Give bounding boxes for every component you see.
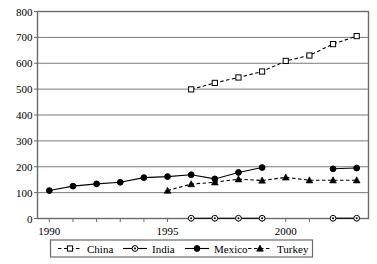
legend-label: Mexico — [214, 243, 248, 255]
chart-canvas: 0100200300400500600700800 199019952000 C… — [0, 0, 377, 264]
series-india-marker-dot — [214, 217, 216, 219]
legend-label: Turkey — [277, 243, 309, 255]
series-china-marker-square — [330, 42, 335, 47]
y-tick-label: 800 — [16, 6, 33, 18]
series-mexico-marker-circle — [141, 175, 147, 181]
series-china-marker-square — [354, 33, 359, 38]
y-tick-label: 200 — [16, 161, 33, 173]
y-tick-label: 400 — [16, 109, 33, 121]
chart-legend: ChinaIndiaMexicoTurkey — [51, 240, 313, 257]
series-mexico-marker-circle — [46, 188, 52, 194]
y-tick-label: 500 — [16, 83, 33, 95]
series-india-marker-dot — [332, 217, 334, 219]
series-china-marker-square — [260, 69, 265, 74]
y-tick-label: 300 — [16, 135, 33, 147]
x-tick-label: 1990 — [38, 225, 61, 237]
series-mexico-marker-circle — [330, 166, 336, 172]
x-tick-label: 2000 — [275, 225, 298, 237]
y-tick-label: 600 — [16, 57, 33, 69]
series-mexico-marker-circle — [354, 165, 360, 171]
legend-label: India — [152, 243, 175, 255]
series-china-marker-square — [189, 87, 194, 92]
y-tick-label: 100 — [16, 187, 33, 199]
y-tick-label: 700 — [16, 31, 33, 43]
series-mexico-marker-circle — [188, 172, 194, 178]
series-mexico-marker-circle — [94, 181, 100, 187]
legend-china-marker-square — [67, 246, 72, 251]
series-china-marker-square — [236, 75, 241, 80]
x-tick-label: 1995 — [157, 225, 180, 237]
series-mexico-marker-circle — [259, 165, 265, 171]
series-line — [333, 168, 357, 169]
series-mexico-marker-circle — [165, 174, 171, 180]
series-mexico-marker-circle — [236, 170, 242, 176]
series-india-marker-dot — [237, 217, 239, 219]
series-india-marker-dot — [356, 217, 358, 219]
y-tick-label: 0 — [27, 213, 33, 225]
series-china-marker-square — [283, 58, 288, 63]
line-chart: 0100200300400500600700800 199019952000 C… — [0, 0, 377, 264]
series-india-marker-dot — [190, 217, 192, 219]
legend-label: China — [87, 243, 113, 255]
series-mexico-marker-circle — [70, 183, 76, 189]
series-china-marker-square — [307, 53, 312, 58]
series-india-marker-dot — [261, 217, 263, 219]
legend-india-marker-dot — [134, 248, 136, 250]
series-mexico-marker-circle — [117, 179, 123, 185]
series-china-marker-square — [212, 80, 217, 85]
legend-mexico-marker-circle — [194, 246, 200, 252]
